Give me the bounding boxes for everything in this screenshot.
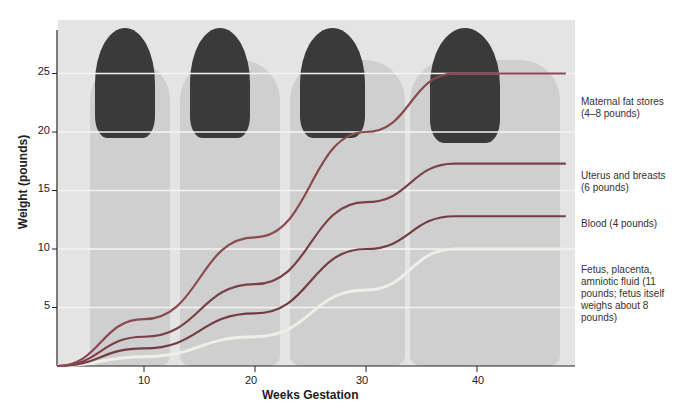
x-tick-20: 20 xyxy=(236,374,266,386)
y-tick-20: 20 xyxy=(26,124,50,136)
y-tick-5: 5 xyxy=(26,299,50,311)
legend-uterus-breasts: Uterus and breasts (6 pounds) xyxy=(581,170,677,194)
curve-uterus xyxy=(57,164,566,366)
legend-maternal-fat: Maternal fat stores (4–8 pounds) xyxy=(581,96,677,120)
series-curves xyxy=(57,74,566,367)
y-tick-10: 10 xyxy=(26,241,50,253)
x-tick-10: 10 xyxy=(129,374,159,386)
curve-blood xyxy=(57,216,566,366)
x-tick-30: 30 xyxy=(347,374,377,386)
legend-blood: Blood (4 pounds) xyxy=(581,218,677,230)
chart-plot xyxy=(0,0,677,417)
chart-figure: Weight (pounds) Weeks Gestation 25 20 15… xyxy=(0,0,677,417)
legend-fetus: Fetus, placenta, amniotic fluid (11 poun… xyxy=(581,264,677,324)
curve-fat xyxy=(57,74,566,367)
grid-lines xyxy=(57,74,575,308)
y-tick-25: 25 xyxy=(26,65,50,77)
x-tick-40: 40 xyxy=(463,374,493,386)
x-axis-label: Weeks Gestation xyxy=(262,388,358,402)
y-tick-15: 15 xyxy=(26,182,50,194)
